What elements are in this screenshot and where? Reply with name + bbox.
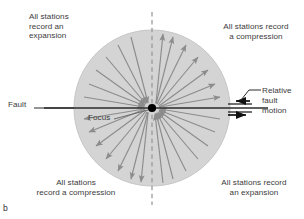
relative-motion-leader-line <box>241 90 261 100</box>
quadrant-label-lower-left: All stations record a compression <box>20 178 132 197</box>
quadrant-label-upper-left: All stations record an expansion <box>29 12 69 41</box>
quadrant-label-lower-right: All stations record an expansion <box>208 178 300 197</box>
fault-label: Fault <box>8 100 26 110</box>
focus-label: Focus <box>88 113 110 123</box>
quadrant-label-upper-right: All stations record a compression <box>212 22 300 41</box>
focus-dot <box>148 104 156 112</box>
relative-fault-motion-label: Relative fault motion <box>262 86 292 115</box>
panel-label: b <box>3 204 8 214</box>
